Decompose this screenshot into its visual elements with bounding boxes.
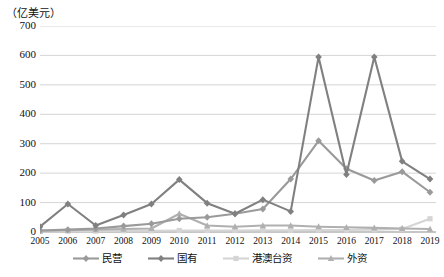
y-axis-tick: 100 — [2, 197, 36, 208]
legend-item-3[interactable]: 港澳台资 — [223, 253, 292, 264]
legend-label: 民营 — [102, 253, 122, 264]
y-axis-tick: 500 — [2, 79, 36, 90]
data-point-marker — [315, 53, 322, 60]
legend-item-2[interactable]: 国有 — [148, 253, 197, 264]
y-axis-tick: 400 — [2, 108, 36, 119]
data-point-marker — [260, 228, 265, 233]
data-point-marker — [204, 214, 211, 221]
legend-item-1[interactable]: 民营 — [73, 253, 122, 264]
data-point-marker — [288, 228, 293, 233]
data-point-marker — [371, 177, 378, 184]
data-point-marker — [120, 211, 127, 218]
data-point-marker — [343, 171, 350, 178]
chart-legend: 民营国有港澳台资外资 — [0, 253, 439, 264]
series-1 — [40, 137, 433, 234]
legend-marker-icon — [223, 254, 249, 263]
legend-label: 外资 — [347, 253, 367, 264]
data-point-marker — [233, 256, 238, 261]
legend-label: 港澳台资 — [252, 253, 292, 264]
y-axis-tick: 200 — [2, 167, 36, 178]
legend-marker-icon — [148, 254, 174, 263]
legend-item-4[interactable]: 外资 — [318, 253, 367, 264]
data-point-marker — [82, 255, 89, 262]
data-point-marker — [287, 208, 294, 215]
data-point-marker — [177, 228, 182, 233]
legend-marker-icon — [73, 254, 99, 263]
y-axis-unit-label: （亿美元） — [6, 4, 61, 20]
data-point-marker — [371, 53, 378, 60]
plot-area — [40, 26, 430, 232]
y-axis-tick: 600 — [2, 49, 36, 60]
series-line — [40, 57, 430, 227]
legend-label: 国有 — [177, 253, 197, 264]
data-point-marker — [157, 255, 164, 262]
data-point-marker — [260, 196, 267, 203]
data-point-marker — [232, 210, 239, 217]
data-point-marker — [205, 228, 210, 233]
series-2 — [40, 53, 433, 230]
data-point-marker — [427, 216, 432, 221]
y-axis-tick: 700 — [2, 20, 36, 31]
legend-marker-icon — [318, 254, 344, 263]
y-axis-tick: 300 — [2, 138, 36, 149]
